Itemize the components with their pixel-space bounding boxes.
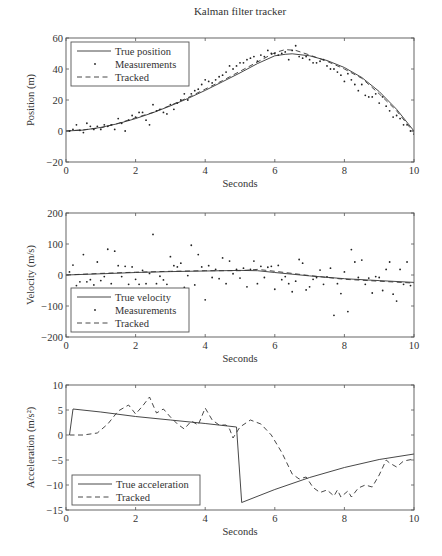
legend-label-true-acceleration: True acceleration [116,479,190,490]
y-tick-label: 10 [53,380,64,391]
x-tick-label: 0 [63,513,68,524]
x-tick-label: 6 [272,513,277,524]
y-tick-label: 0 [58,430,63,441]
y-tick-label: 200 [47,208,63,219]
kalman-figure: Kalman filter tracker 0246810−200204060S… [0,0,442,556]
x-tick-label: 4 [203,340,209,351]
y-tick-label: 40 [53,64,64,75]
legend-marker-dot [94,309,96,311]
figure-title: Kalman filter tracker [194,5,287,17]
y-tick-label: 20 [53,95,64,106]
x-axis-label: Seconds [223,178,258,189]
legend-label-true-position: True position [115,46,172,57]
legend-label-tracked: Tracked [116,492,151,503]
y-tick-label: 100 [47,239,63,250]
x-tick-label: 2 [133,513,138,524]
legend-label-tracked: Tracked [115,72,150,83]
x-tick-label: 8 [342,340,347,351]
x-tick-label: 2 [133,340,138,351]
legend-label-measurements: Measurements [115,59,176,70]
legend-marker-dot [94,63,96,65]
y-tick-label: −15 [47,505,63,516]
legend-label-true-velocity: True velocity [115,292,172,303]
y-tick-label: 60 [53,33,64,44]
x-axis-label: Seconds [223,526,258,537]
x-tick-label: 10 [409,340,420,351]
y-tick-label: 0 [58,270,63,281]
legend: True positionMeasurementsTracked [71,42,189,86]
legend: True accelerationTracked [72,475,200,505]
y-tick-label: 0 [58,126,63,137]
velocity-chart: 0246810−200−1000100200SecondsVelocity (m… [25,208,419,365]
acceleration-chart: 0246810−15−10−50510SecondsAcceleration (… [25,380,419,538]
x-tick-label: 0 [63,340,68,351]
x-tick-label: 4 [203,513,209,524]
y-tick-label: −5 [52,455,63,466]
y-tick-label: −100 [41,301,63,312]
legend-label-measurements: Measurements [115,305,176,316]
x-tick-label: 10 [409,513,420,524]
x-tick-label: 0 [63,165,68,176]
legend: True velocityMeasurementsTracked [71,288,189,332]
y-tick-label: −200 [41,332,63,343]
legend-label-tracked: Tracked [115,318,150,329]
y-axis-label: Acceleration (m/s²) [25,406,37,488]
tracked-line [66,269,414,283]
y-axis-label: Position (m) [25,73,37,126]
y-tick-label: 5 [58,405,63,416]
x-tick-label: 10 [409,165,420,176]
y-axis-label: Velocity (m/s) [25,245,37,305]
true-velocity-line [66,270,414,282]
x-tick-label: 6 [272,340,277,351]
position-chart: 0246810−200204060SecondsPosition (m)True… [25,33,419,190]
x-tick-label: 8 [342,165,347,176]
x-tick-label: 8 [342,513,347,524]
x-axis-label: Seconds [223,353,258,364]
x-tick-label: 6 [272,165,277,176]
x-tick-label: 4 [203,165,209,176]
x-tick-label: 2 [133,165,138,176]
y-tick-label: −10 [47,480,63,491]
y-tick-label: −20 [47,157,63,168]
